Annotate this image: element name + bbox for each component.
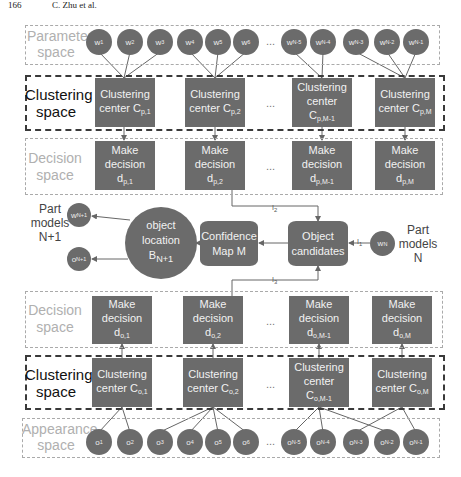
- make-decision-p2: Makedecisiondp,2: [185, 141, 245, 190]
- clustering-center-o2: Clusteringcenter Co,2: [183, 358, 243, 407]
- make-decision-om: Makedecisiondo,M: [372, 296, 432, 344]
- edge-label-i2: I2: [272, 204, 277, 213]
- parameter-node: wN-4: [310, 29, 336, 55]
- parameter-node: w5: [205, 29, 231, 55]
- parameter-node: w2: [117, 29, 143, 55]
- clustering-space-bottom-label: Clustering space: [25, 366, 87, 400]
- appearance-node: o2: [117, 429, 143, 455]
- appearance-node: oN-2: [374, 429, 400, 455]
- parameter-node: wN-3: [343, 29, 369, 55]
- make-decision-o1: Makedecisiondo,1: [92, 296, 152, 344]
- w-n-node: wN: [370, 231, 395, 256]
- part-models-n-plus-1-label: PartmodelsN+1: [30, 202, 70, 244]
- parameter-node: wN-5: [281, 29, 307, 55]
- ellipsis: ...: [266, 35, 275, 47]
- o-n-plus-1-node: oN+1: [67, 247, 91, 271]
- parameter-node: w4: [177, 29, 203, 55]
- appearance-node: oN-4: [310, 429, 336, 455]
- edge-label-i3: I3: [272, 276, 277, 285]
- confidence-map-node: ConfidenceMap M: [200, 221, 258, 266]
- make-decision-pm: Makedecisiondp,M: [375, 141, 435, 190]
- edge-label-i1: I1: [357, 238, 362, 247]
- parameter-node: w6: [233, 29, 259, 55]
- clustering-center-p1: Clusteringcenter Cp,1: [95, 78, 155, 127]
- appearance-node: o1: [86, 429, 112, 455]
- parameter-node: wN-2: [374, 29, 400, 55]
- ellipsis: ...: [266, 435, 275, 447]
- ellipsis: ...: [266, 97, 275, 109]
- part-models-n-label: PartmodelsN: [398, 223, 438, 265]
- parameter-node: wN-1: [403, 29, 429, 55]
- appearance-node: o4: [177, 429, 203, 455]
- appearance-node: oN-1: [403, 429, 429, 455]
- make-decision-o2: Makedecisiondo,2: [183, 296, 243, 344]
- appearance-node: o6: [233, 429, 259, 455]
- appearance-node: oN-3: [343, 429, 369, 455]
- w-n-plus-1-node: wN+1: [67, 203, 91, 227]
- make-decision-om-1: Makedecisiondo,M-1: [289, 296, 349, 344]
- object-candidates-node: Objectcandidates: [288, 221, 348, 266]
- clustering-center-o1: Clusteringcenter Co,1: [92, 358, 152, 407]
- clustering-center-pm: Clusteringcenter Cp,M: [375, 78, 435, 127]
- clustering-center-om: Clusteringcenter Co,M: [372, 358, 432, 407]
- ellipsis: ...: [266, 378, 275, 390]
- appearance-space-label: Appearance space: [22, 421, 90, 453]
- appearance-node: o3: [147, 429, 173, 455]
- decision-space-top-label: Decision space: [25, 150, 85, 184]
- parameter-node: w3: [147, 29, 173, 55]
- appearance-node: oN-5: [281, 429, 307, 455]
- parameter-node: w1: [86, 29, 112, 55]
- make-decision-p1: Makedecisiondp,1: [95, 141, 155, 190]
- clustering-center-pm-1: ClusteringcenterCp,M-1: [292, 78, 352, 127]
- parameter-space-label: Parameter space: [27, 28, 85, 60]
- appearance-node: o5: [205, 429, 231, 455]
- ellipsis: ...: [266, 315, 275, 327]
- object-location-node: objectlocationBN+1: [125, 207, 197, 279]
- decision-space-bottom-label: Decision space: [25, 302, 85, 336]
- make-decision-pm-1: Makedecisiondp,M-1: [292, 141, 352, 190]
- ellipsis: ...: [266, 160, 275, 172]
- clustering-center-om-1: ClusteringcenterCo,M-1: [289, 358, 349, 407]
- clustering-space-top-label: Clustering space: [25, 86, 87, 120]
- clustering-center-p2: Clusteringcenter Cp,2: [185, 78, 245, 127]
